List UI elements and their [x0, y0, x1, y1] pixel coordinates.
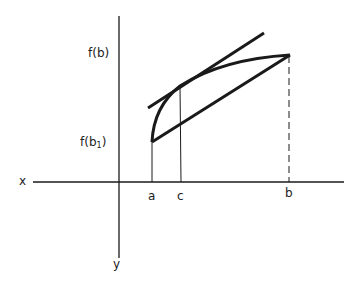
label-x-axis: x — [19, 175, 26, 187]
label-y-axis: y — [113, 258, 120, 270]
label-fb1-close: ) — [102, 135, 107, 149]
vertical-c — [180, 86, 181, 182]
label-fb1-main: f(b — [80, 135, 97, 149]
tangent-line — [148, 33, 264, 108]
label-b: b — [285, 187, 293, 199]
label-c: c — [177, 190, 184, 202]
label-fb1: f(b1) — [80, 136, 106, 150]
mvt-diagram: f(b) f(b1) x y a c b — [0, 0, 359, 284]
label-a: a — [148, 190, 155, 202]
label-fb: f(b) — [88, 47, 109, 59]
diagram-svg — [0, 0, 359, 284]
